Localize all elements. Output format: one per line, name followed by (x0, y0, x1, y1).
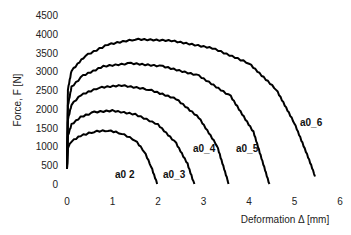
curve-label: a0_3 (163, 169, 186, 180)
y-tick-label: 4500 (36, 10, 59, 21)
curve-a0-2 (67, 130, 157, 184)
y-tick-label: 2500 (36, 85, 59, 96)
curve-label: a0_5 (236, 143, 259, 154)
y-tick-label: 1000 (36, 141, 59, 152)
y-tick-label: 2000 (36, 104, 59, 115)
curve-label: a0 2 (115, 169, 135, 180)
x-axis-title: Deformation Δ [mm] (241, 214, 330, 225)
y-axis-title: Force, F [N] (12, 73, 23, 126)
x-tick-label: 3 (201, 196, 207, 207)
curve-a0-6 (67, 39, 315, 177)
y-tick-label: 3000 (36, 66, 59, 77)
y-tick-label: 500 (41, 160, 58, 171)
y-tick-label: 1500 (36, 123, 59, 134)
y-axis-ticks: 050010001500200025003000350040004500 (36, 10, 59, 190)
curve-a0-4 (67, 85, 229, 184)
curve-a0-5 (67, 63, 270, 184)
x-axis-ticks: 0123456 (64, 196, 343, 207)
y-tick-label: 3500 (36, 48, 59, 59)
force-deformation-chart: 050010001500200025003000350040004500 012… (0, 0, 351, 235)
x-tick-label: 4 (246, 196, 252, 207)
x-tick-label: 0 (64, 196, 70, 207)
x-tick-label: 5 (292, 196, 298, 207)
curve-label: a0_6 (300, 117, 323, 128)
y-tick-label: 4000 (36, 29, 59, 40)
y-tick-label: 0 (52, 179, 58, 190)
x-tick-label: 2 (155, 196, 161, 207)
curves (67, 39, 315, 184)
curve-label: a0_4 (193, 143, 216, 154)
x-tick-label: 6 (337, 196, 343, 207)
x-tick-label: 1 (110, 196, 116, 207)
